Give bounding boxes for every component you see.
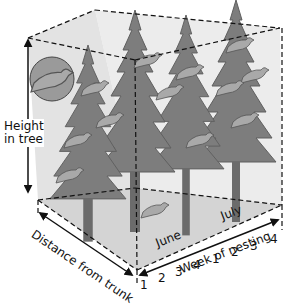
week-tick: 3 [250,239,258,253]
height-label-line2: in tree [4,133,44,146]
inset-bird-circle [30,57,74,101]
week-tick: 2 [231,245,239,259]
week-tick: 1 [212,252,220,266]
week-tick: 3 [175,265,183,279]
week-tick: 4 [193,258,201,272]
week-tick: 2 [158,271,166,285]
height-label: Height in tree [4,119,44,147]
week-tick: 1 [140,278,148,292]
week-tick: 4 [270,232,278,246]
